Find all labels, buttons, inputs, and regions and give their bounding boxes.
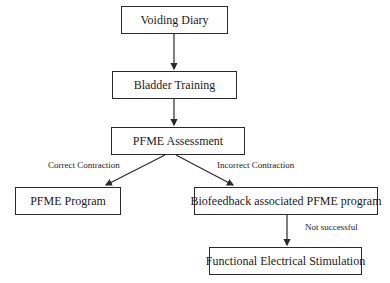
node-label: Voiding Diary (140, 13, 208, 28)
node-pfme-assessment: PFME Assessment (111, 127, 245, 155)
node-label: Bladder Training (134, 78, 216, 93)
node-label: Biofeedback associated PFME program (191, 194, 382, 209)
node-label: PFME Program (30, 194, 106, 209)
node-functional-electrical-stimulation: Functional Electrical Stimulation (209, 247, 362, 275)
node-pfme-program: PFME Program (15, 187, 121, 215)
node-label: Functional Electrical Stimulation (206, 254, 365, 269)
edge-label-correct-contraction: Correct Contraction (48, 160, 120, 170)
node-label: PFME Assessment (133, 134, 223, 149)
node-voiding-diary: Voiding Diary (121, 6, 228, 34)
edge-label-not-successful: Not successful (305, 222, 358, 232)
node-bladder-training: Bladder Training (112, 71, 237, 99)
node-biofeedback-pfme-program: Biofeedback associated PFME program (194, 187, 378, 215)
edge-label-incorrect-contraction: Incorrect Contraction (217, 160, 294, 170)
